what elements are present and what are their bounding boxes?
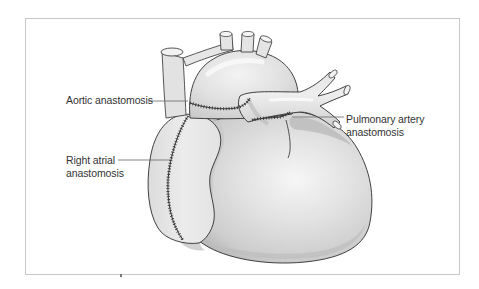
label-right-atrial-line2: anastomosis <box>66 167 124 180</box>
label-right-atrial-anastomosis: Right atrial anastomosis <box>66 154 124 179</box>
label-pulmonary-artery-anastomosis: Pulmonary artery anastomosis <box>346 113 424 138</box>
label-pulmonary-line2: anastomosis <box>346 126 424 139</box>
label-aortic-anastomosis: Aortic anastomosis <box>66 94 153 107</box>
label-aortic-line1: Aortic anastomosis <box>66 94 153 106</box>
frame-tick-mark <box>120 274 122 277</box>
heart-illustration <box>0 0 479 289</box>
superior-vena-cava <box>162 52 186 118</box>
label-pulmonary-line1: Pulmonary artery <box>346 113 424 126</box>
label-right-atrial-line1: Right atrial <box>66 154 124 167</box>
right-atrium <box>148 114 221 243</box>
